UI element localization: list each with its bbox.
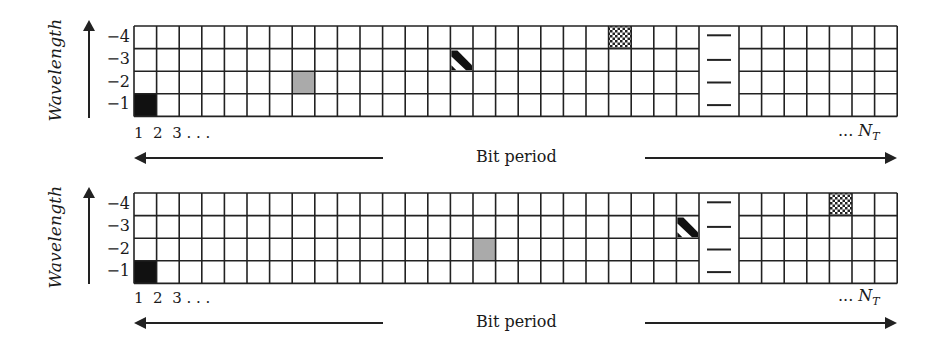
end-label-sub: T — [872, 130, 879, 143]
end-label-sub: T — [872, 295, 879, 308]
bottom-panel: Wavelength −4 −3 −2 −1 1 2 3 . . . ... N… — [0, 167, 942, 337]
marked-cell-diagonal-stripe — [451, 51, 472, 71]
marked-cell-black — [134, 94, 157, 117]
end-index-label: ... NT — [838, 286, 880, 308]
time-wavelength-grid — [0, 0, 942, 130]
end-index-label: ... NT — [838, 121, 880, 143]
left-arrow — [144, 322, 383, 324]
marked-cell-gray — [473, 238, 496, 261]
right-arrow — [645, 322, 887, 324]
left-arrow — [144, 157, 383, 159]
bit-period-label: Bit period — [476, 312, 557, 331]
time-wavelength-grid — [0, 167, 942, 297]
marked-cell-crosshatch — [609, 26, 632, 49]
end-label-prefix: ... — [838, 286, 858, 305]
marked-cell-diagonal-stripe — [677, 218, 698, 238]
end-label-var: N — [858, 121, 872, 140]
top-panel: Wavelength −4 −3 −2 −1 1 2 3 . . . ... N… — [0, 0, 942, 170]
marked-cell-gray — [292, 71, 315, 94]
bit-index-labels: 1 2 3 . . . — [134, 124, 210, 142]
right-arrow — [645, 157, 887, 159]
end-label-prefix: ... — [838, 121, 858, 140]
marked-cell-crosshatch — [829, 193, 852, 216]
marked-cell-black — [134, 261, 157, 284]
end-label-var: N — [858, 286, 872, 305]
bit-period-label: Bit period — [476, 147, 557, 166]
bit-index-labels: 1 2 3 . . . — [134, 289, 210, 307]
